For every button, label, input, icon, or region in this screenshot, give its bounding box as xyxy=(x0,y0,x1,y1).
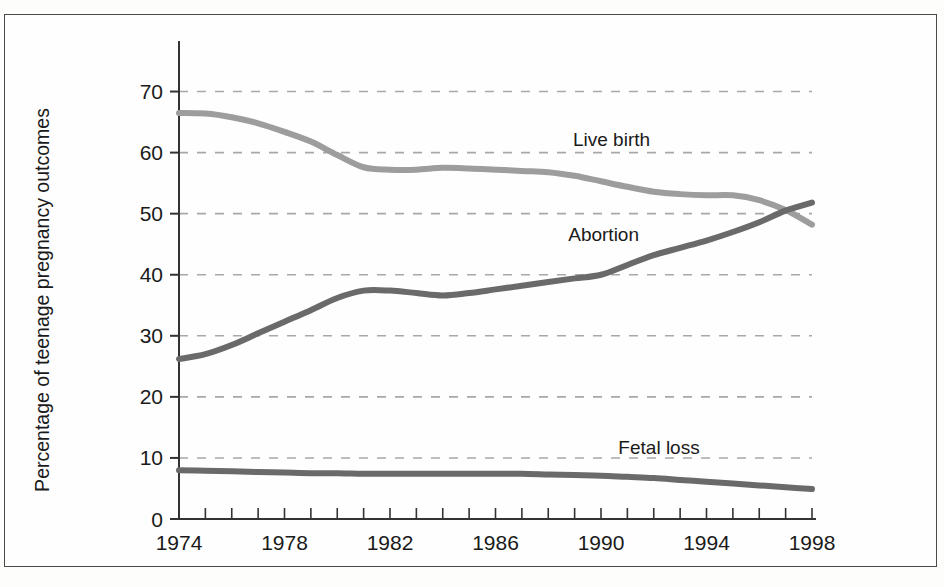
x-axis-labels: 1974197819821986199019941998 xyxy=(156,531,836,554)
y-axis-ticks: 010203040506070 xyxy=(140,80,179,530)
y-tick-label-0: 0 xyxy=(151,508,163,531)
series-group xyxy=(179,113,812,489)
y-tick-label-30: 30 xyxy=(140,324,163,347)
series-label-live-birth: Live birth xyxy=(573,129,650,150)
series-line-live-birth xyxy=(179,113,812,225)
series-line-fetal-loss xyxy=(179,470,812,489)
x-tick-label-1986: 1986 xyxy=(472,531,519,554)
x-tick-label-1990: 1990 xyxy=(578,531,625,554)
x-axis-minor-ticks xyxy=(179,508,812,519)
y-tick-label-10: 10 xyxy=(140,446,163,469)
x-tick-label-1982: 1982 xyxy=(367,531,414,554)
y-tick-label-70: 70 xyxy=(140,80,163,103)
figure-border-frame: 0102030405060701974197819821986199019941… xyxy=(4,14,937,567)
x-tick-label-1974: 1974 xyxy=(156,531,203,554)
y-tick-label-50: 50 xyxy=(140,202,163,225)
y-tick-label-40: 40 xyxy=(140,263,163,286)
x-tick-label-1998: 1998 xyxy=(789,531,836,554)
figure-root: 0102030405060701974197819821986199019941… xyxy=(0,0,944,587)
gridlines xyxy=(179,92,812,458)
y-tick-label-60: 60 xyxy=(140,141,163,164)
x-tick-label-1978: 1978 xyxy=(261,531,308,554)
y-axis-title: Percentage of teenage pregnancy outcomes xyxy=(31,108,53,492)
line-chart: 0102030405060701974197819821986199019941… xyxy=(5,15,938,568)
series-label-abortion: Abortion xyxy=(568,224,639,245)
y-tick-label-20: 20 xyxy=(140,385,163,408)
x-tick-label-1994: 1994 xyxy=(683,531,730,554)
series-label-fetal-loss: Fetal loss xyxy=(618,437,699,458)
